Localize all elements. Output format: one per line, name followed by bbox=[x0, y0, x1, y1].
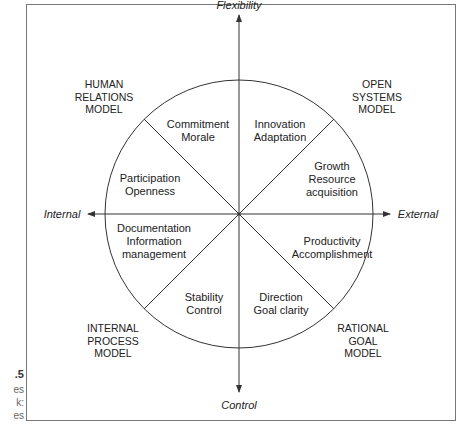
segment-line: Adaptation bbox=[240, 131, 320, 144]
segment-line: Productivity bbox=[284, 235, 380, 248]
axis-label-external: External bbox=[394, 208, 442, 221]
segment-line: Growth bbox=[292, 160, 372, 173]
segment-line: management bbox=[106, 248, 202, 261]
segment-line: Stability bbox=[172, 291, 236, 304]
segment-growth-resource: Growth Resource acquisition bbox=[292, 160, 372, 199]
axis-label-flexibility: Flexibility bbox=[214, 0, 264, 12]
caption-fragment: es bbox=[0, 383, 24, 396]
segment-stability-control: Stability Control bbox=[172, 291, 236, 317]
model-rational-goal: RATIONAL GOAL MODEL bbox=[328, 322, 398, 360]
caption-fragment: es bbox=[0, 409, 24, 422]
model-line: INTERNAL bbox=[78, 322, 148, 335]
model-line: RATIONAL bbox=[328, 322, 398, 335]
model-line: GOAL bbox=[328, 335, 398, 348]
segment-productivity-accomplishment: Productivity Accomplishment bbox=[284, 235, 380, 261]
segment-innovation-adaptation: Innovation Adaptation bbox=[240, 118, 320, 144]
model-line: MODEL bbox=[78, 347, 148, 360]
axis-label-control: Control bbox=[218, 399, 260, 412]
model-line: MODEL bbox=[342, 103, 412, 116]
axis-label-internal: Internal bbox=[40, 208, 84, 221]
segment-line: Commitment bbox=[158, 118, 238, 131]
segment-line: Innovation bbox=[240, 118, 320, 131]
model-human-relations: HUMAN RELATIONS MODEL bbox=[64, 78, 144, 116]
segment-line: acquisition bbox=[292, 186, 372, 199]
segment-direction-goal-clarity: Direction Goal clarity bbox=[244, 291, 318, 317]
model-line: SYSTEMS bbox=[342, 91, 412, 104]
segment-line: Direction bbox=[244, 291, 318, 304]
segment-participation-openness: Participation Openness bbox=[110, 172, 190, 198]
model-line: RELATIONS bbox=[64, 91, 144, 104]
segment-documentation-information: Documentation Information management bbox=[106, 222, 202, 261]
caption-fragment: k: bbox=[0, 396, 24, 409]
segment-line: Documentation bbox=[106, 222, 202, 235]
segment-line: Control bbox=[172, 304, 236, 317]
model-internal-process: INTERNAL PROCESS MODEL bbox=[78, 322, 148, 360]
model-line: PROCESS bbox=[78, 335, 148, 348]
segment-line: Information bbox=[106, 235, 202, 248]
model-line: MODEL bbox=[64, 103, 144, 116]
model-line: OPEN bbox=[342, 78, 412, 91]
segment-line: Goal clarity bbox=[244, 304, 318, 317]
segment-line: Morale bbox=[158, 131, 238, 144]
model-open-systems: OPEN SYSTEMS MODEL bbox=[342, 78, 412, 116]
model-line: MODEL bbox=[328, 347, 398, 360]
model-line: HUMAN bbox=[64, 78, 144, 91]
figure-number: .5 bbox=[0, 368, 24, 381]
segment-commitment-morale: Commitment Morale bbox=[158, 118, 238, 144]
center-point bbox=[237, 212, 240, 215]
segment-line: Openness bbox=[110, 185, 190, 198]
segment-line: Accomplishment bbox=[284, 248, 380, 261]
segment-line: Participation bbox=[110, 172, 190, 185]
segment-line: Resource bbox=[292, 173, 372, 186]
